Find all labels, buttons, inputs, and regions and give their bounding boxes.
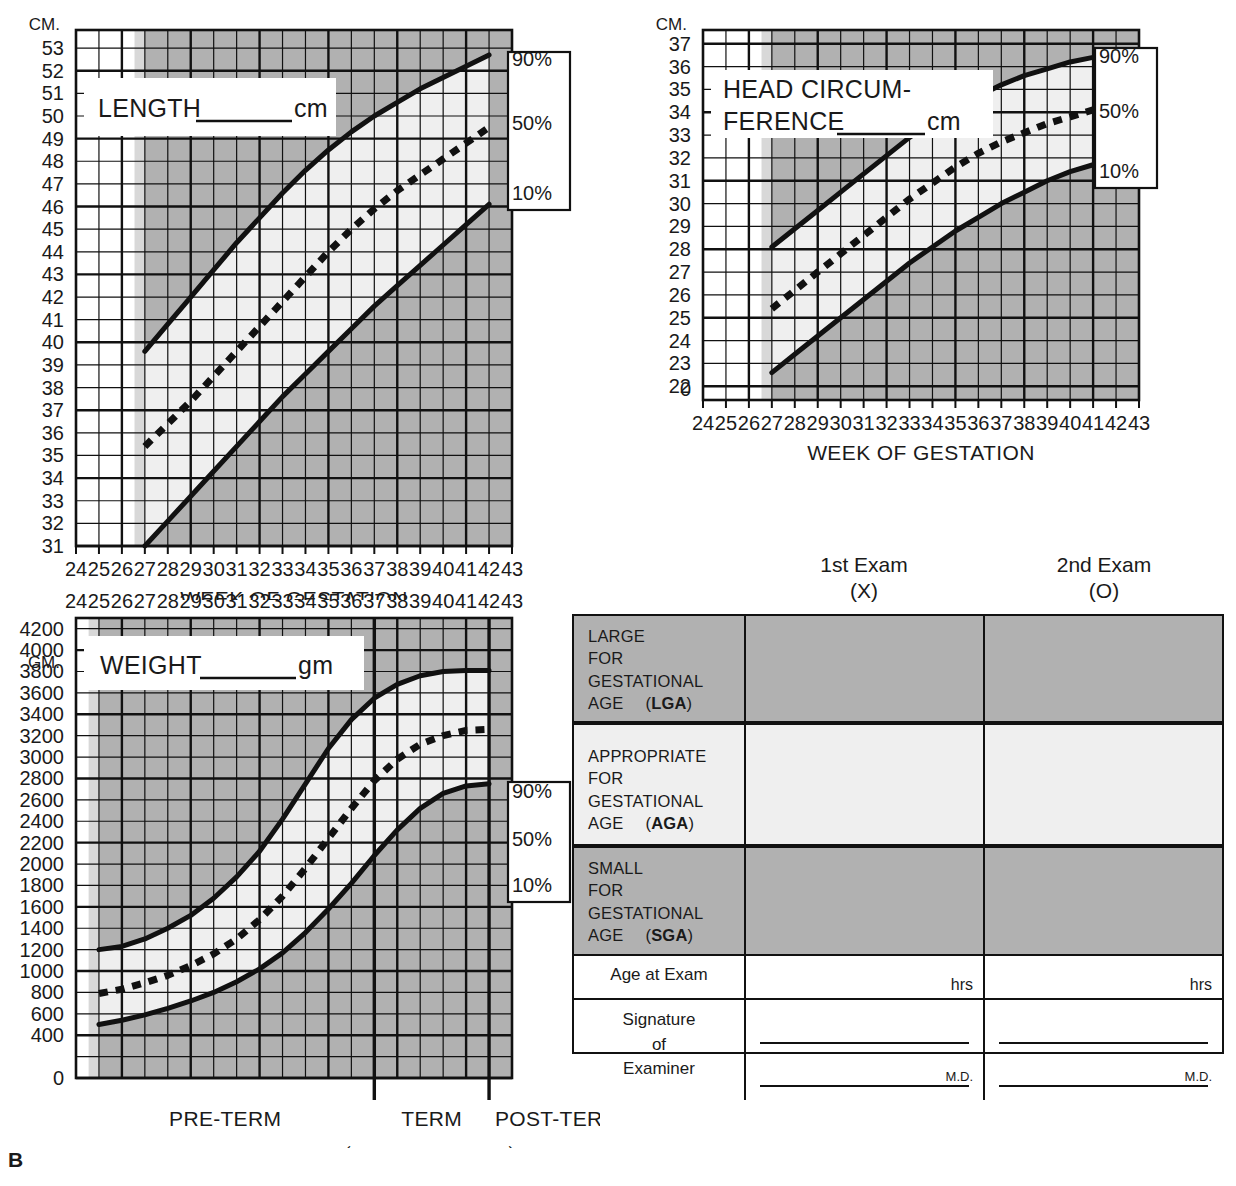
svg-text:47: 47	[42, 173, 64, 195]
svg-text:27: 27	[669, 261, 691, 283]
sga-exam1-cell[interactable]	[746, 848, 985, 954]
signature-exam1-rule-top	[760, 1042, 969, 1044]
svg-text:25: 25	[715, 412, 737, 434]
svg-text:45: 45	[42, 218, 64, 240]
signature-line-2: of	[574, 1033, 744, 1058]
table-row-aga[interactable]: APPROPRIATE FOR GESTATIONAL AGE(AGA)	[574, 725, 1222, 848]
svg-text:33: 33	[271, 590, 293, 612]
svg-text:TERM: TERM	[401, 1107, 462, 1130]
signature-exam2-field[interactable]: M.D.	[985, 1000, 1222, 1100]
table-row-age-at-exam[interactable]: Age at Exam hrs hrs	[574, 956, 1222, 1000]
aga-exam1-cell[interactable]	[746, 725, 985, 844]
signature-exam2-rule-bottom	[999, 1085, 1208, 1087]
sga-line-3: GESTATIONAL	[588, 902, 744, 924]
svg-text:39: 39	[409, 558, 431, 580]
svg-text:24: 24	[669, 330, 691, 352]
svg-text:FERENCE: FERENCE	[723, 107, 845, 135]
aga-line-1: APPROPRIATE	[588, 745, 744, 767]
svg-text:1600: 1600	[20, 896, 65, 918]
length-chart-panel: 90%50%10%CM.5352515049484746454443424140…	[0, 0, 600, 600]
svg-text:50%: 50%	[1099, 100, 1139, 122]
svg-text:41: 41	[42, 309, 64, 331]
svg-text:1800: 1800	[20, 874, 65, 896]
svg-text:35: 35	[317, 558, 339, 580]
aga-exam2-cell[interactable]	[985, 725, 1222, 844]
aga-line-3: GESTATIONAL	[588, 790, 744, 812]
svg-text:33: 33	[898, 412, 920, 434]
svg-text:30: 30	[669, 193, 691, 215]
svg-text:26: 26	[111, 558, 133, 580]
exam-column-2-header: 2nd Exam (O)	[984, 552, 1224, 605]
svg-text:40: 40	[1059, 412, 1081, 434]
svg-text:32: 32	[248, 590, 270, 612]
age-exam1-unit: hrs	[951, 976, 973, 994]
sga-line-2: FOR	[588, 879, 744, 901]
svg-text:34: 34	[921, 412, 943, 434]
svg-text:32: 32	[669, 147, 691, 169]
svg-text:36: 36	[340, 558, 362, 580]
lga-exam1-cell[interactable]	[746, 616, 985, 721]
svg-text:50%: 50%	[512, 828, 552, 850]
table-row-lga[interactable]: LARGE FOR GESTATIONAL AGE(LGA)	[574, 616, 1222, 725]
signature-exam2-rule-top	[999, 1042, 1208, 1044]
row-label-sga: SMALL FOR GESTATIONAL AGE(SGA)	[574, 848, 746, 954]
svg-text:39: 39	[409, 590, 431, 612]
svg-text:36: 36	[669, 56, 691, 78]
svg-text:600: 600	[31, 1003, 64, 1025]
table-row-signature[interactable]: Signature of Examiner M.D. M.D.	[574, 1000, 1222, 1100]
svg-text:41: 41	[1082, 412, 1104, 434]
svg-text:24: 24	[65, 590, 87, 612]
lga-exam2-cell[interactable]	[985, 616, 1222, 721]
age-exam1-field[interactable]: hrs	[746, 956, 985, 998]
svg-text:36: 36	[42, 422, 64, 444]
svg-text:38: 38	[42, 377, 64, 399]
svg-text:42: 42	[478, 558, 500, 580]
svg-text:51: 51	[42, 82, 64, 104]
row-label-lga: LARGE FOR GESTATIONAL AGE(LGA)	[574, 616, 746, 721]
table-row-sga[interactable]: SMALL FOR GESTATIONAL AGE(SGA)	[574, 848, 1222, 956]
svg-text:33: 33	[42, 490, 64, 512]
head-circumference-chart-svg: 90%50%10%CM.3736353433323130292827262524…	[625, 0, 1236, 500]
svg-text:2800: 2800	[20, 767, 65, 789]
svg-text:37: 37	[363, 558, 385, 580]
svg-text:31: 31	[226, 558, 248, 580]
weight-chart-panel: 90%50%10%GM.4200400038003600340032003000…	[0, 588, 600, 1148]
age-exam2-unit: hrs	[1190, 976, 1212, 994]
svg-text:41: 41	[455, 590, 477, 612]
svg-text:CM.: CM.	[656, 15, 687, 34]
exam-column-1-marker: (X)	[744, 578, 984, 604]
svg-text:LENGTH: LENGTH	[98, 94, 201, 122]
signature-exam1-field[interactable]: M.D.	[746, 1000, 985, 1100]
svg-text:27: 27	[761, 412, 783, 434]
svg-text:43: 43	[1128, 412, 1150, 434]
svg-text:28: 28	[157, 558, 179, 580]
svg-text:27: 27	[134, 558, 156, 580]
svg-text:10%: 10%	[512, 874, 552, 896]
svg-text:43: 43	[501, 558, 523, 580]
svg-text:2600: 2600	[20, 789, 65, 811]
svg-text:50: 50	[42, 105, 64, 127]
svg-text:25: 25	[88, 558, 110, 580]
svg-text:2400: 2400	[20, 810, 65, 832]
svg-text:32: 32	[248, 558, 270, 580]
svg-text:42: 42	[478, 590, 500, 612]
signature-exam1-credential: M.D.	[946, 1069, 973, 1084]
svg-text:30: 30	[830, 412, 852, 434]
svg-text:34: 34	[42, 467, 64, 489]
svg-text:35: 35	[669, 78, 691, 100]
svg-text:CM.: CM.	[29, 15, 60, 34]
sga-exam2-cell[interactable]	[985, 848, 1222, 954]
age-exam2-field[interactable]: hrs	[985, 956, 1222, 998]
svg-text:33: 33	[271, 558, 293, 580]
svg-text:23: 23	[669, 352, 691, 374]
svg-text:25: 25	[88, 590, 110, 612]
length-chart-svg: 90%50%10%CM.5352515049484746454443424140…	[0, 0, 600, 600]
lga-line-3: GESTATIONAL	[588, 670, 744, 692]
svg-text:90%: 90%	[1099, 45, 1139, 67]
lga-line-4: AGE(LGA)	[588, 692, 744, 714]
svg-text:29: 29	[669, 215, 691, 237]
svg-text:40: 40	[432, 558, 454, 580]
svg-text:WEIGHT: WEIGHT	[100, 651, 202, 679]
svg-text:27: 27	[134, 590, 156, 612]
svg-text:52: 52	[42, 60, 64, 82]
